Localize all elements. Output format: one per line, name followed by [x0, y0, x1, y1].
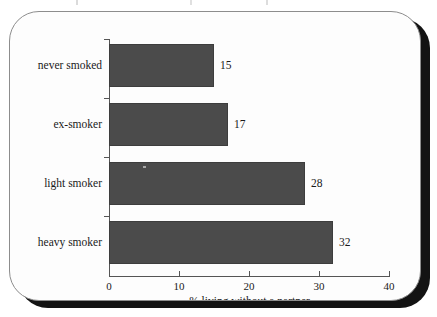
y-axis-tick: [104, 39, 110, 40]
scanned-page: 0 10 20 30 40 15 17 28 32 never smoked e…: [0, 0, 437, 317]
x-axis-tick: [319, 271, 320, 277]
y-axis-tick: [104, 98, 110, 99]
bar-ex-smoker: [109, 103, 228, 146]
bar-heavy-smoker: [109, 221, 333, 264]
bar-light-smoker: [109, 162, 305, 205]
y-axis-category-labels: never smoked ex-smoker light smoker heav…: [18, 12, 102, 301]
bar-value-heavy-smoker: 32: [339, 236, 351, 249]
bar-value-never-smoked: 15: [220, 59, 232, 72]
x-axis-tick: [249, 271, 250, 277]
scan-artifact-speck: [143, 166, 146, 168]
plot-area: 0 10 20 30 40 15 17 28 32 never smoked e…: [10, 12, 421, 301]
bar-value-ex-smoker: 17: [234, 118, 246, 131]
x-tick-label-10: 10: [164, 280, 194, 293]
y-axis-tick: [104, 157, 110, 158]
category-label-never-smoked: never smoked: [18, 59, 102, 72]
x-tick-label-40: 40: [374, 280, 404, 293]
chart-figure-frame: 0 10 20 30 40 15 17 28 32 never smoked e…: [9, 11, 421, 301]
category-label-heavy-smoker: heavy smoker: [18, 236, 102, 249]
x-axis-tick: [109, 271, 110, 277]
bar-never-smoked: [109, 44, 214, 87]
x-axis-tick: [179, 271, 180, 277]
x-tick-label-20: 20: [234, 280, 264, 293]
y-axis-tick: [104, 216, 110, 217]
x-axis-tick: [389, 271, 390, 277]
cut-off-text-remnant: [70, 0, 320, 5]
category-label-ex-smoker: ex-smoker: [18, 118, 102, 131]
category-label-light-smoker: light smoker: [18, 177, 102, 190]
x-axis-title: % living without a partner: [109, 295, 390, 301]
x-tick-label-30: 30: [304, 280, 334, 293]
bar-value-light-smoker: 28: [311, 177, 323, 190]
